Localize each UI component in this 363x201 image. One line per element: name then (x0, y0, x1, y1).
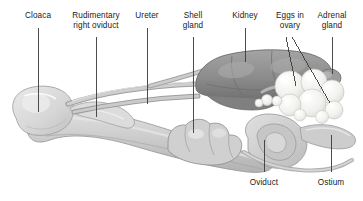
cloaca-part (13, 86, 74, 135)
label-shell-gland: Shell gland (183, 11, 204, 30)
label-kidney: Kidney (232, 11, 258, 21)
label-rudimentary-right-oviduct: Rudimentary right oviduct (72, 11, 120, 30)
label-adrenal-gland: Adrenal gland (318, 11, 347, 30)
anatomy-illustration (0, 0, 363, 201)
label-eggs-in-ovary: Eggs in ovary (276, 11, 304, 30)
label-ostium: Ostium (318, 178, 345, 188)
shell-gland-part (168, 119, 242, 165)
ostium-part (244, 114, 355, 171)
label-cloaca: Cloaca (25, 11, 51, 21)
anatomy-figure: Cloaca Rudimentary right oviduct Ureter … (0, 0, 363, 201)
label-oviduct: Oviduct (250, 178, 278, 188)
label-ureter: Ureter (135, 11, 158, 21)
